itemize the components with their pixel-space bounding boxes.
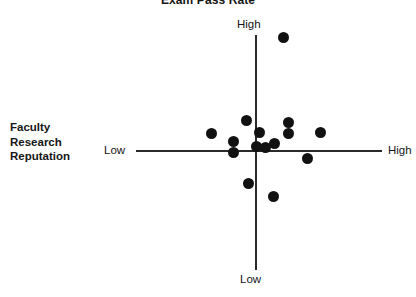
data-point	[254, 127, 265, 138]
data-point	[283, 117, 294, 128]
data-point	[228, 136, 239, 147]
data-point	[278, 32, 289, 43]
data-point	[283, 128, 294, 139]
data-point	[228, 147, 239, 158]
data-point	[269, 138, 280, 149]
scatter-plot-figure: Exam Pass Rate Faculty Research Reputati…	[0, 0, 416, 297]
data-point	[241, 115, 252, 126]
data-point	[315, 127, 326, 138]
data-point	[268, 191, 279, 202]
data-point	[206, 128, 217, 139]
data-points-layer	[0, 0, 416, 297]
data-point	[302, 153, 313, 164]
data-point	[243, 178, 254, 189]
